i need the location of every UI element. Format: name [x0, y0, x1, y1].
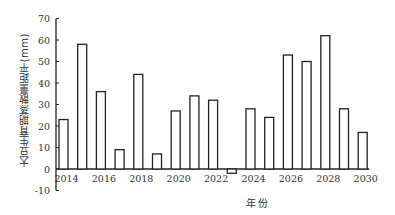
y-tick-label: 10 [38, 142, 50, 153]
bar-2018 [134, 74, 143, 169]
bar-2015 [78, 44, 87, 169]
bar-2019 [153, 154, 162, 169]
y-tick-label: 20 [38, 121, 50, 132]
x-tick-label: 2026 [279, 173, 303, 184]
bar-2014 [59, 120, 68, 169]
x-tick-label: 2028 [316, 173, 340, 184]
x-tick-label: 2022 [204, 173, 228, 184]
bar-2024 [246, 109, 255, 169]
x-tick-label: 2014 [54, 173, 78, 184]
y-tick-label: 60 [38, 35, 50, 46]
bar-2021 [190, 96, 199, 169]
bar-2028 [321, 36, 330, 169]
x-tick-label: 2024 [241, 173, 265, 184]
y-tick-label: 40 [38, 78, 50, 89]
x-tick-label: 2020 [167, 173, 191, 184]
bar-2023 [227, 169, 236, 173]
y-tick-label: -10 [35, 185, 50, 196]
bar-2022 [209, 100, 218, 169]
y-tick-label: 30 [38, 99, 50, 110]
y-tick-label: 50 [38, 56, 50, 67]
bar-2029 [340, 109, 349, 169]
x-tick-label: 2030 [354, 173, 378, 184]
bar-2016 [96, 92, 105, 169]
x-tick-label: 2018 [129, 173, 153, 184]
x-tick-label: 2016 [92, 173, 116, 184]
bar-2027 [302, 62, 311, 170]
bar-2025 [265, 117, 274, 169]
bar-2026 [283, 55, 292, 169]
y-tick-label: 0 [44, 164, 50, 175]
bar-2030 [358, 132, 367, 169]
bar-2020 [171, 111, 180, 169]
bar-chart: -100102030405060702014201620182020202220… [0, 0, 395, 215]
bar-2017 [115, 150, 124, 169]
y-tick-label: 70 [38, 13, 50, 24]
